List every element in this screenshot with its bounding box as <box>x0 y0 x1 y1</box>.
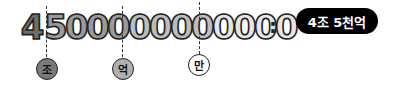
digit: 0 <box>170 10 191 44</box>
digit: 0 <box>107 10 128 44</box>
separator-eok <box>122 6 123 57</box>
digit-jo: 4 <box>20 10 44 44</box>
digit: 0 <box>275 10 296 44</box>
digit: 0 <box>191 10 212 44</box>
unit-label-man: 만 <box>188 54 210 76</box>
separator-man <box>199 2 200 54</box>
digit: 0 <box>149 10 170 44</box>
unit-label-jo: 조 <box>36 58 58 80</box>
separator-jo <box>46 6 47 57</box>
result-badge: 4조 5천억 <box>296 8 378 34</box>
digit: 0 <box>86 10 107 44</box>
digit: 5 <box>44 10 65 44</box>
digit: 0 <box>233 10 254 44</box>
colon: : <box>269 14 277 38</box>
digit: 0 <box>128 10 149 44</box>
number-display: 4 5 0 0 0 0 0 0 0 0 0 0 0 <box>20 8 296 44</box>
digit: 0 <box>212 10 233 44</box>
unit-label-eok: 억 <box>112 58 134 80</box>
digit: 0 <box>65 10 86 44</box>
